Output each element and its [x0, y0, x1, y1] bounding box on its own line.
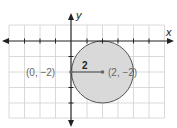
center-label: (2, −2)	[108, 67, 137, 78]
x-axis-right-arrow-icon	[167, 38, 174, 44]
coordinate-plane: x y 2 (0, −2) (2, −2)	[0, 0, 177, 128]
x-axis-label: x	[165, 26, 172, 38]
center-point	[101, 70, 105, 74]
coordinate-plane-diagram: x y 2 (0, −2) (2, −2)	[0, 0, 177, 128]
y-axis-up-arrow-icon	[68, 13, 74, 20]
radius-label: 2	[82, 60, 88, 71]
point-label: (0, −2)	[26, 67, 55, 78]
x-axis	[5, 39, 170, 44]
x-axis-left-arrow-icon	[2, 38, 9, 44]
point-on-circle	[69, 70, 73, 74]
y-axis-label: y	[75, 9, 83, 21]
y-axis-down-arrow-icon	[68, 120, 74, 127]
